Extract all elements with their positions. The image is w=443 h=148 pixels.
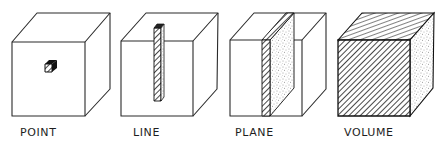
line-cube-icon [121, 13, 218, 116]
panel-plane: PLANE [230, 13, 326, 139]
point-marker-icon [45, 60, 57, 72]
panel-point: POINT [12, 13, 110, 139]
plane-label: PLANE [235, 126, 274, 139]
point-label: POINT [20, 126, 56, 139]
panel-line: LINE [121, 13, 218, 139]
panel-volume: VOLUME [338, 13, 434, 139]
volume-cube-icon [338, 13, 434, 116]
dimension-diagram: POINT LINE PLANE [0, 0, 443, 148]
point-cube-icon [12, 13, 110, 116]
line-rod-icon [154, 24, 164, 101]
plane-slab-icon [262, 13, 294, 116]
line-label: LINE [133, 126, 160, 139]
volume-label: VOLUME [344, 126, 394, 139]
